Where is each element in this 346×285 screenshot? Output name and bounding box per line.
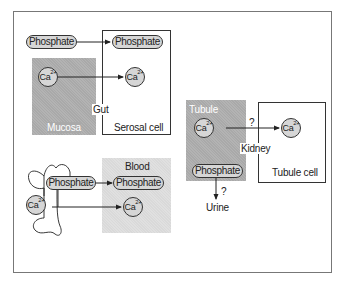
gut-label: Gut xyxy=(92,104,110,115)
gut-phosphate-source: Phosphate xyxy=(26,35,77,49)
kidney-phosphate: Phosphate xyxy=(192,164,243,178)
gut-phosphate-target: Phosphate xyxy=(112,35,163,49)
kidney-phosphate-question: ? xyxy=(221,186,226,197)
blood-phosphate: Phosphate xyxy=(113,176,164,190)
kidney-calcium-target: Ca2+ xyxy=(281,118,301,138)
gut-calcium-target: Ca2+ xyxy=(125,67,145,87)
bone-calcium: Ca2+ xyxy=(26,195,46,215)
kidney-label: Kidney xyxy=(240,143,271,154)
bone-phosphate: Phosphate xyxy=(46,176,96,190)
blood-label: Blood xyxy=(125,161,150,172)
tubule-cell-label: Tubule cell xyxy=(272,167,318,178)
urine-label: Urine xyxy=(206,202,229,213)
gut-calcium-source: Ca2+ xyxy=(38,67,58,87)
serosal-cell-label: Serosal cell xyxy=(114,122,163,133)
kidney-calcium-source: Ca2+ xyxy=(194,118,214,138)
tubule-label: Tubule xyxy=(189,104,218,115)
blood-calcium: Ca2+ xyxy=(123,197,143,217)
kidney-calcium-question: ? xyxy=(249,117,254,128)
mucosa-label: Mucosa xyxy=(47,122,81,133)
